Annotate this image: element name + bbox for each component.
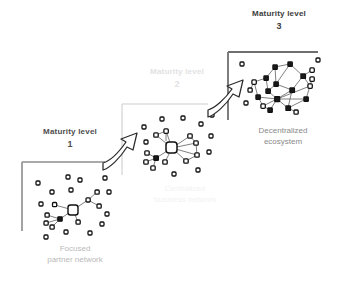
maturity-level-2-title: Maturity level bbox=[150, 67, 204, 76]
bracket-level-1 bbox=[22, 162, 105, 231]
network-level-3-edges bbox=[250, 64, 312, 112]
network-level-2-nodes bbox=[142, 116, 213, 176]
caption-3-line-2: ecosystem bbox=[264, 137, 302, 146]
caption-focused-partner-network: Focused partner network bbox=[30, 243, 120, 265]
caption-1-line-1: Focused bbox=[60, 244, 91, 253]
network-level-1 bbox=[36, 175, 111, 239]
caption-centralized-business-network: Centralized business network bbox=[137, 183, 233, 205]
maturity-level-3-title: Maturity level bbox=[252, 9, 306, 18]
caption-3-line-1: Decentralized bbox=[259, 126, 308, 135]
network-level-3 bbox=[210, 58, 320, 117]
maturity-level-3-label: Maturity level 3 bbox=[233, 8, 325, 32]
caption-decentralized-ecosystem: Decentralized ecosystem bbox=[238, 125, 328, 147]
maturity-level-1-title: Maturity level bbox=[43, 127, 97, 136]
network-level-1-nodes bbox=[36, 175, 111, 239]
network-level-2 bbox=[142, 116, 213, 176]
maturity-level-1-number: 1 bbox=[24, 138, 116, 150]
maturity-level-diagram: Maturity level 1 Maturity level 2 Maturi… bbox=[0, 0, 340, 281]
network-level-3-nodes bbox=[210, 58, 320, 117]
maturity-level-2-number: 2 bbox=[131, 78, 223, 90]
caption-2-line-2: business network bbox=[154, 195, 216, 204]
maturity-level-1-label: Maturity level 1 bbox=[24, 126, 116, 150]
caption-1-line-2: partner network bbox=[47, 255, 103, 264]
maturity-level-3-number: 3 bbox=[233, 20, 325, 32]
maturity-level-2-label: Maturity level 2 bbox=[131, 66, 223, 90]
caption-2-line-1: Centralized bbox=[165, 184, 205, 193]
